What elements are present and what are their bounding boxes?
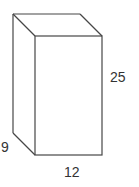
front-face [35,36,102,155]
top-left-depth-edge [13,14,35,36]
prism-diagram: 25 12 9 [0,0,139,187]
top-right-depth-edge [80,14,102,36]
width-label: 12 [64,164,80,180]
height-label: 25 [110,69,126,85]
bottom-left-depth-edge [13,133,35,155]
prism-edges [13,14,102,155]
depth-label: 9 [1,139,9,155]
